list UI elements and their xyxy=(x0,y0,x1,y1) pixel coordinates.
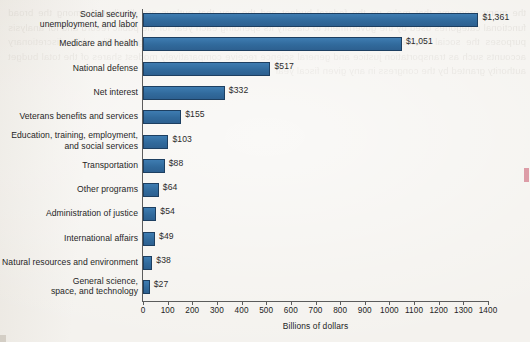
bar-value-label: $155 xyxy=(185,109,205,119)
category-label: Other programs xyxy=(0,184,138,194)
category-label: Net interest xyxy=(0,87,138,97)
x-tick-label: 0 xyxy=(141,306,146,315)
x-tick-label: 400 xyxy=(235,306,249,315)
plot-area: $1,361$1,051$517$332$155$103$88$64$54$49… xyxy=(143,9,488,301)
bar-row: $1,051 xyxy=(143,33,488,57)
x-tick-label: 1000 xyxy=(380,306,399,315)
x-tick xyxy=(365,301,366,305)
bar[interactable] xyxy=(143,232,155,246)
bar[interactable] xyxy=(143,159,165,173)
bar-row: $1,361 xyxy=(143,9,488,33)
x-tick-label: 100 xyxy=(161,306,175,315)
bar-row: $517 xyxy=(143,58,488,82)
x-tick xyxy=(266,301,267,305)
bar-value-label: $64 xyxy=(163,182,178,192)
category-label: International affairs xyxy=(0,233,138,243)
category-label: Natural resources and environment xyxy=(0,257,138,267)
x-tick-label: 600 xyxy=(284,306,298,315)
bar-row: $88 xyxy=(143,155,488,179)
category-label: General science, space, and technology xyxy=(0,276,138,296)
category-label: Social security, unemployment, and labor xyxy=(0,9,138,29)
bar[interactable] xyxy=(143,86,225,100)
x-tick xyxy=(143,301,144,305)
bar[interactable] xyxy=(143,207,156,221)
category-label: Administration of justice xyxy=(0,208,138,218)
category-label: Transportation xyxy=(0,160,138,170)
bar-value-label: $1,051 xyxy=(406,36,433,46)
bar[interactable] xyxy=(143,13,478,27)
bar-value-label: $1,361 xyxy=(482,12,509,22)
bar-value-label: $27 xyxy=(154,279,169,289)
bar-value-label: $517 xyxy=(274,61,294,71)
x-tick-label: 1100 xyxy=(405,306,423,315)
x-tick-label: 800 xyxy=(333,306,347,315)
bar-value-label: $38 xyxy=(156,255,171,265)
bar-value-label: $103 xyxy=(172,134,192,144)
x-tick xyxy=(316,301,317,305)
bar-row: $54 xyxy=(143,203,488,227)
bar-chart: $1,361$1,051$517$332$155$103$88$64$54$49… xyxy=(0,0,530,342)
x-tick-label: 200 xyxy=(185,306,199,315)
x-tick-label: 900 xyxy=(358,306,372,315)
bar-value-label: $49 xyxy=(159,231,174,241)
x-tick-label: 300 xyxy=(210,306,224,315)
x-tick-label: 1200 xyxy=(429,306,448,315)
bar[interactable] xyxy=(143,135,168,149)
x-tick xyxy=(414,301,415,305)
x-tick xyxy=(340,301,341,305)
x-tick xyxy=(463,301,464,305)
category-label: National defense xyxy=(0,63,138,73)
x-tick xyxy=(389,301,390,305)
x-axis-title: Billions of dollars xyxy=(143,321,488,331)
bar[interactable] xyxy=(143,280,150,294)
x-tick xyxy=(192,301,193,305)
x-tick-label: 1300 xyxy=(454,306,473,315)
x-tick xyxy=(291,301,292,305)
bar[interactable] xyxy=(143,110,181,124)
x-tick-label: 1400 xyxy=(479,306,498,315)
bar-row: $103 xyxy=(143,131,488,155)
bar-value-label: $54 xyxy=(160,206,175,216)
x-tick-label: 500 xyxy=(259,306,273,315)
x-tick xyxy=(242,301,243,305)
bar[interactable] xyxy=(143,183,159,197)
x-tick xyxy=(488,301,489,305)
bar-row: $64 xyxy=(143,179,488,203)
bar-row: $27 xyxy=(143,276,488,300)
bar-value-label: $332 xyxy=(229,85,249,95)
y-axis-line xyxy=(142,9,143,302)
bar-value-label: $88 xyxy=(169,158,184,168)
x-tick xyxy=(168,301,169,305)
category-label: Medicare and health xyxy=(0,38,138,48)
bar[interactable] xyxy=(143,37,402,51)
bar-row: $155 xyxy=(143,106,488,130)
bar-row: $49 xyxy=(143,228,488,252)
category-label: Veterans benefits and services xyxy=(0,111,138,121)
x-tick xyxy=(217,301,218,305)
category-label: Education, training, employment, and soc… xyxy=(0,130,138,150)
bar[interactable] xyxy=(143,256,152,270)
x-tick-label: 700 xyxy=(309,306,323,315)
bar-row: $38 xyxy=(143,252,488,276)
bar[interactable] xyxy=(143,62,270,76)
bar-row: $332 xyxy=(143,82,488,106)
x-tick xyxy=(439,301,440,305)
